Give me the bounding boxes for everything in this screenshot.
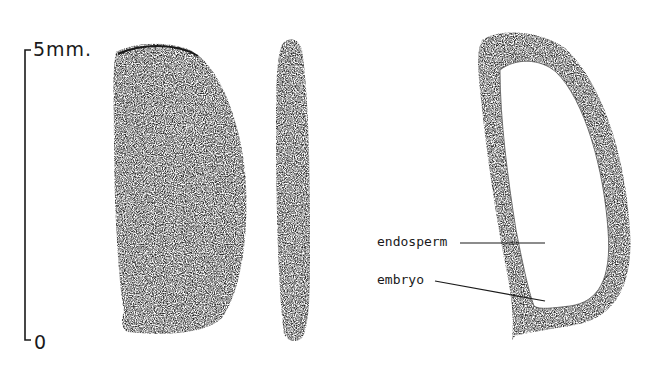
scale-top-label: 5mm. (33, 38, 92, 60)
seed-side-view (276, 39, 310, 341)
seed-illustration (0, 0, 666, 365)
seed-face-view (114, 44, 247, 334)
endosperm-label: endosperm (377, 234, 447, 249)
embryo-label: embryo (377, 272, 424, 287)
seed-longitudinal-section (478, 32, 630, 340)
scale-bar (25, 50, 31, 340)
scale-bottom-label: 0 (34, 331, 47, 353)
